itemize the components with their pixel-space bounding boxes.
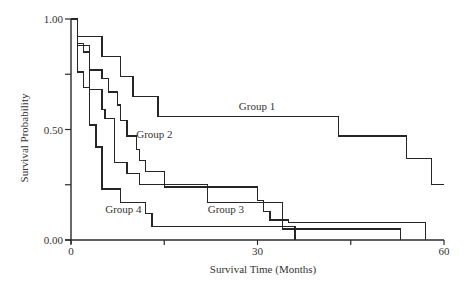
y-tick-label: 0.00 xyxy=(44,234,64,246)
y-tick-label: 0.50 xyxy=(44,124,64,136)
x-ticks: 03060 xyxy=(68,240,450,257)
label-group-1: Group 1 xyxy=(239,100,275,112)
group-labels: Group 1Group 2Group 3Group 4 xyxy=(105,100,275,216)
y-axis-title: Survival Probability xyxy=(18,93,30,182)
y-tick-label: 1.00 xyxy=(44,13,64,25)
y-ticks: 0.000.501.00 xyxy=(44,13,71,246)
x-axis-title: Survival Time (Months) xyxy=(210,263,317,276)
label-group-3: Group 3 xyxy=(208,203,245,215)
x-tick-label: 30 xyxy=(252,245,264,257)
label-group-4: Group 4 xyxy=(105,203,142,215)
x-tick-label: 60 xyxy=(439,245,451,257)
axes: 0.000.501.00 03060 xyxy=(44,13,450,257)
kaplan-meier-chart: 0.000.501.00 03060 Survival Probability … xyxy=(0,0,470,291)
label-group-2: Group 2 xyxy=(136,128,172,140)
x-tick-label: 0 xyxy=(68,245,74,257)
